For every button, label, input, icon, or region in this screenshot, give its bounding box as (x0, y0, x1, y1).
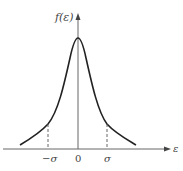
y-axis-arrow-icon (76, 13, 81, 20)
y-axis-label: f(ε) (54, 11, 74, 24)
tick-label-zero: 0 (75, 153, 81, 164)
x-axis-label: ε (173, 143, 178, 154)
x-axis-arrow-icon (164, 147, 171, 152)
tick-label-minus-sigma: −σ (42, 153, 58, 164)
tick-label-sigma: σ (104, 153, 112, 164)
density-diagram: f(ε) ε −σ 0 σ (0, 0, 183, 171)
